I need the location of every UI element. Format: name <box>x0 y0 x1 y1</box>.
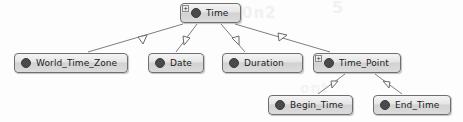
node-date[interactable]: Date <box>148 53 204 73</box>
node-duration[interactable]: Duration <box>222 53 303 73</box>
node-world-time-zone[interactable]: World_Time_Zone <box>14 53 128 73</box>
concept-bullet-icon <box>324 58 334 68</box>
node-label: Duration <box>244 58 284 68</box>
generalization-arrowhead <box>138 35 147 44</box>
generalization-arrowhead <box>383 81 390 88</box>
generalization-arrowhead <box>232 36 239 45</box>
concept-bullet-icon <box>155 58 165 68</box>
expand-plus-icon[interactable]: + <box>315 55 322 62</box>
node-time-point[interactable]: + Time_Point <box>313 53 401 73</box>
node-end-time[interactable]: End_Time <box>373 95 451 115</box>
node-time[interactable]: + Time <box>180 3 241 23</box>
node-label: End_Time <box>395 100 439 110</box>
diagram-canvas: 0n2 5 ont + Time <box>0 0 463 122</box>
edge-time-world-time-zone <box>88 24 183 52</box>
node-label: Time_Point <box>339 58 389 68</box>
node-label: Begin_Time <box>290 100 343 110</box>
generalization-arrowhead <box>331 81 338 88</box>
generalization-arrowhead <box>278 33 287 41</box>
expand-plus-icon[interactable]: + <box>182 5 189 12</box>
node-label: Time <box>206 8 228 18</box>
concept-bullet-icon <box>229 58 239 68</box>
node-label: Date <box>170 58 192 68</box>
concept-bullet-icon <box>191 8 201 18</box>
concept-bullet-icon <box>21 58 31 68</box>
concept-bullet-icon <box>380 100 390 110</box>
node-label: World_Time_Zone <box>36 58 117 68</box>
concept-bullet-icon <box>275 100 285 110</box>
node-begin-time[interactable]: Begin_Time <box>268 95 353 115</box>
generalization-arrowhead <box>183 36 190 45</box>
